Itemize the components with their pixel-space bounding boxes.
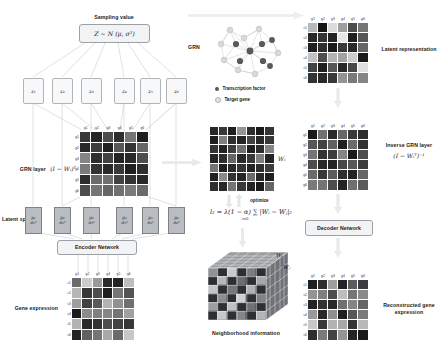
z-node-6: z₆ xyxy=(166,78,187,104)
transcription-factor-dot xyxy=(215,87,219,91)
inverse-grn-row-g2: g2 xyxy=(298,140,307,150)
decoder-network-box: Decoder Network xyxy=(305,220,373,236)
inverse-grn-row-g1: g1 xyxy=(298,130,307,140)
heatmap-cell xyxy=(93,299,103,309)
top-flow-arrow xyxy=(188,6,306,15)
heatmap-cell xyxy=(247,164,256,173)
heatmap-cell xyxy=(72,278,82,288)
encoder-network-box: Encoder Network xyxy=(57,240,137,255)
heatmap-cell xyxy=(358,160,368,170)
heatmap-cell xyxy=(358,73,368,83)
reconstructed-heatmap xyxy=(308,280,368,340)
heatmap-cell xyxy=(328,130,338,140)
heatmap-cell xyxy=(265,154,274,163)
heatmap-cell xyxy=(103,330,113,340)
heatmap-cell xyxy=(265,145,274,154)
latent-representation-row-c4: c4 xyxy=(298,53,307,63)
heatmap-cell xyxy=(308,150,318,160)
heatmap-cell xyxy=(328,170,338,180)
heatmap-cell xyxy=(82,319,92,329)
heatmap-cell xyxy=(103,309,113,319)
inverse-grn-heatmap xyxy=(308,130,368,190)
heatmap-cell xyxy=(358,63,368,73)
heatmap-cell xyxy=(80,143,91,154)
heatmap-cell xyxy=(80,175,91,186)
heatmap-cell xyxy=(328,73,338,83)
heatmap-cell xyxy=(237,164,246,173)
grn-legend-transcription-factor: Transcription factor xyxy=(215,86,266,92)
heatmap-cell xyxy=(328,310,338,320)
heatmap-cell xyxy=(318,330,328,340)
heatmap-cell xyxy=(348,280,358,290)
latent-representation-row-c6: c6 xyxy=(298,73,307,83)
heatmap-cell xyxy=(228,127,237,136)
loss-formula-group: l₂ = λ(1 − α) ∑ |Wᵢ − Wⱼ|₂ xyxy=(192,208,310,216)
heatmap-cell xyxy=(308,43,318,53)
heatmap-cell xyxy=(210,164,219,173)
grn-graph-label: GRN xyxy=(188,44,210,51)
heatmap-cell xyxy=(125,153,136,164)
optimize-label: optimize xyxy=(250,198,269,204)
grn-layer-caption: GRN layer (I − Wᵢ)ᵀ xyxy=(2,157,76,175)
heatmap-cell xyxy=(358,140,368,150)
z-node-4-label: z₄ xyxy=(122,88,127,94)
heatmap-cell xyxy=(338,63,348,73)
sampling-formula: Z ~ N (μ, σ²) xyxy=(94,30,134,37)
heatmap-cell xyxy=(125,143,136,154)
heatmap-cell xyxy=(137,143,148,154)
heatmap-cell xyxy=(113,319,123,329)
heatmap-cell xyxy=(328,320,338,330)
heatmap-cell xyxy=(338,170,348,180)
heatmap-cell xyxy=(338,300,348,310)
heatmap-cell xyxy=(247,136,256,145)
heatmap-cell xyxy=(210,182,219,191)
heatmap-cell xyxy=(348,140,358,150)
heatmap-cell xyxy=(348,53,358,63)
latent-representation-heatmap xyxy=(308,23,368,83)
z-node-1: z₁ xyxy=(23,78,44,104)
heatmap-cell xyxy=(318,180,328,190)
heatmap-cell xyxy=(328,180,338,190)
neighborhood-cube xyxy=(200,248,292,326)
heatmap-cell xyxy=(113,299,123,309)
heatmap-cell xyxy=(358,310,368,320)
gene-expression-row-headers: c1 c2 c3 c4 c5 c6 xyxy=(62,278,71,340)
grn-legend-target-gene: Target gene xyxy=(215,97,250,103)
inverse-grn-caption: Inverse GRN layer (I − Wᵢᵀ)⁻¹ xyxy=(376,142,442,159)
inverse-grn-row-headers: g1 g2 g3 g4 g5 g6 xyxy=(298,130,307,190)
grn-layer-row-g3: g3 xyxy=(70,153,79,164)
heatmap-cell xyxy=(113,330,123,340)
heatmap-cell xyxy=(247,182,256,191)
heatmap-cell xyxy=(103,185,114,196)
heatmap-cell xyxy=(338,23,348,33)
heatmap-cell xyxy=(125,132,136,143)
latent-representation-row-c5: c5 xyxy=(298,63,307,73)
heatmap-cell xyxy=(318,290,328,300)
heatmap-cell xyxy=(219,182,228,191)
heatmap-cell xyxy=(318,280,328,290)
heatmap-cell xyxy=(124,299,134,309)
heatmap-cell xyxy=(91,153,102,164)
heatmap-cell xyxy=(338,320,348,330)
heatmap-cell xyxy=(328,63,338,73)
heatmap-cell xyxy=(358,53,368,63)
heatmap-cell xyxy=(318,130,328,140)
heatmap-cell xyxy=(114,164,125,175)
heatmap-cell xyxy=(358,150,368,160)
heatmap-cell xyxy=(348,23,358,33)
heatmap-cell xyxy=(338,310,348,320)
latent-node-3: μ₃ σ₃² xyxy=(83,207,100,234)
grn-layer-row-g4: g4 xyxy=(70,164,79,175)
heatmap-cell xyxy=(256,154,265,163)
heatmap-cell xyxy=(91,185,102,196)
decoder-network-label: Decoder Network xyxy=(317,225,361,232)
reconstructed-row-c2: c2 xyxy=(298,290,307,300)
optimize-arrows xyxy=(224,193,250,209)
heatmap-cell xyxy=(348,330,358,340)
heatmap-cell xyxy=(228,136,237,145)
inverse-grn-formula: (I − Wᵢᵀ)⁻¹ xyxy=(376,152,442,159)
z-node-6-label: z₆ xyxy=(174,88,179,94)
reconstructed-row-c4: c4 xyxy=(298,310,307,320)
heatmap-cell xyxy=(247,173,256,182)
heatmap-cell xyxy=(247,145,256,154)
